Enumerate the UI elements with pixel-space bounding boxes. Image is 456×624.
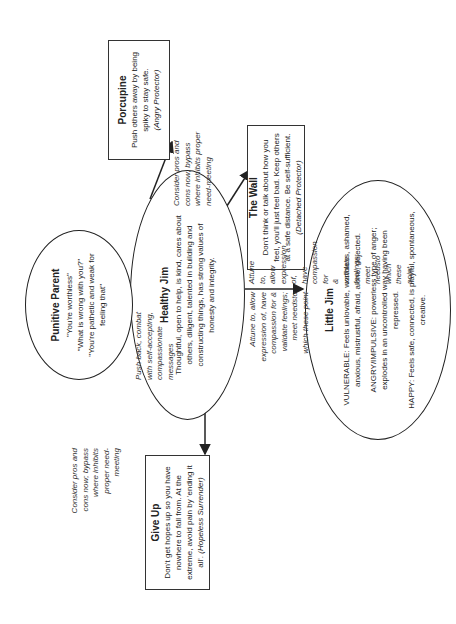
edge-label-little-jim-text: Attune to, allow expression of, have com… bbox=[248, 292, 311, 362]
punitive-parent-quote-1: "You're worthless" bbox=[64, 273, 75, 337]
schema-mode-diagram: Healthy Jim Thoughtful, open to help, is… bbox=[0, 0, 456, 624]
punitive-parent-node: Punitive Parent "You're worthless" "What… bbox=[25, 230, 133, 380]
healthy-jim-text: Thoughtful, open to help, is kind, cares… bbox=[173, 209, 217, 381]
edge-label-give-up: Consider pros and cons now; bypass where… bbox=[70, 448, 123, 520]
edge-label-punitive-parent: Push back, combat with self-accepting, c… bbox=[134, 308, 176, 380]
punitive-parent-quote-3: "You're pathetic and weak for feeling th… bbox=[86, 247, 108, 363]
healthy-jim-node: Healthy Jim Thoughtful, open to help, is… bbox=[130, 170, 245, 420]
the-wall-title: The Wall bbox=[248, 177, 259, 218]
little-jim-angry: ANGRY/IMPULSIVE: powerless type of anger… bbox=[368, 211, 401, 409]
porcupine-text: Push others away by being spiky to stay … bbox=[129, 47, 151, 153]
little-jim-node: Little Jim VULNERABLE: Feels unlovable, … bbox=[305, 180, 451, 440]
the-wall-mode: (Detached Protector) bbox=[294, 160, 303, 234]
give-up-title: Give Up bbox=[150, 504, 161, 542]
give-up-box: Give Up Don't get hopes up so you have n… bbox=[145, 455, 210, 590]
give-up-mode: (Hopeless Surrender) bbox=[196, 477, 205, 553]
little-jim-title: Little Jim bbox=[324, 288, 335, 332]
porcupine-box: Porcupine Push others away by being spik… bbox=[108, 40, 170, 160]
punitive-parent-quote-2: "What is wrong with you?" bbox=[75, 259, 86, 351]
the-wall-text: Don't think or talk about how you feel, … bbox=[261, 133, 292, 261]
little-jim-happy: HAPPY: Feels safe, connected, is playful… bbox=[406, 211, 428, 409]
punitive-parent-title: Punitive Parent bbox=[50, 269, 61, 342]
little-jim-vulnerable: VULNERABLE: Feels unlovable, worthless, … bbox=[341, 211, 363, 409]
edge-label-porcupine: Consider pros and cons now; bypass where… bbox=[172, 128, 214, 206]
porcupine-mode: (Angry Protector) bbox=[151, 70, 162, 131]
porcupine-title: Porcupine bbox=[117, 76, 128, 125]
the-wall-box: The Wall Don't think or talk about how y… bbox=[247, 125, 305, 270]
